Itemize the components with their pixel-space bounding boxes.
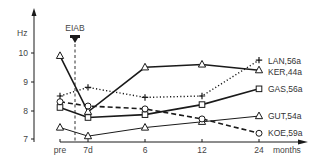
legend-koe: KOE,59a (268, 128, 303, 138)
triangle-marker-icon (255, 112, 262, 119)
square-marker-icon (256, 86, 262, 92)
x-axis-label: months (273, 145, 301, 155)
circle-marker-icon (142, 106, 148, 112)
triangle-marker-icon (56, 124, 63, 131)
chart-canvas: 10 9 8 7 Hz pre 7d 6 12 24 months EIAB L… (0, 0, 336, 161)
y-axis: 10 9 8 7 Hz (17, 8, 37, 144)
x-tick-12: 12 (197, 145, 207, 155)
circle-marker-icon (256, 130, 262, 136)
square-marker-icon (142, 112, 148, 118)
series-line (60, 60, 259, 97)
plus-marker-icon (256, 57, 262, 63)
legend-gas: GAS,56a (268, 84, 303, 94)
x-tick-7d: 7d (83, 145, 93, 155)
plus-marker-icon (85, 84, 91, 90)
circle-marker-icon (199, 116, 205, 122)
y-axis-arrow-icon (32, 8, 37, 16)
plus-marker-icon (199, 93, 205, 99)
x-axis: pre 7d 6 12 24 months (54, 139, 308, 155)
triangle-marker-icon (198, 60, 205, 67)
line-chart: 10 9 8 7 Hz pre 7d 6 12 24 months EIAB L… (0, 0, 336, 161)
circle-marker-icon (85, 103, 91, 109)
legend-lan: LAN,56a (268, 56, 301, 66)
y-tick-8: 8 (23, 106, 28, 116)
x-tick-6: 6 (143, 145, 148, 155)
legend: LAN,56a KER,44a GAS,56a GUT,54a KOE,59a (268, 56, 303, 138)
series-layer (56, 52, 262, 139)
square-marker-icon (57, 105, 63, 111)
x-axis-arrow-icon (298, 140, 308, 145)
square-marker-icon (199, 102, 205, 108)
x-tick-24: 24 (254, 145, 264, 155)
series-lan (57, 57, 262, 101)
legend-gut: GUT,54a (268, 111, 302, 121)
y-axis-label: Hz (17, 28, 27, 38)
eiab-annotation: EIAB (65, 23, 85, 142)
square-marker-icon (85, 115, 91, 121)
y-tick-10: 10 (19, 48, 29, 58)
down-arrow-icon (70, 35, 80, 43)
plus-marker-icon (142, 94, 148, 100)
y-tick-7: 7 (23, 134, 28, 144)
triangle-marker-icon (56, 52, 63, 59)
circle-marker-icon (57, 99, 63, 105)
y-tick-9: 9 (23, 77, 28, 87)
legend-ker: KER,44a (268, 67, 302, 77)
eiab-label: EIAB (65, 23, 85, 33)
x-tick-pre: pre (54, 145, 67, 155)
